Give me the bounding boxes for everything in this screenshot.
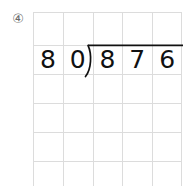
grid-vline [122, 12, 123, 186]
grid-vline [93, 12, 94, 186]
grid-vline [33, 12, 34, 186]
grid-hline [33, 74, 182, 75]
worksheet-canvas: ④ 8 0 8 7 6 [0, 0, 186, 186]
graph-paper-grid [33, 12, 182, 186]
digit-row: 8 0 8 7 6 [33, 45, 182, 74]
grid-hline [33, 161, 182, 162]
digit-cell-dividend-hundreds[interactable]: 8 [93, 45, 123, 74]
digit-cell-dividend-ones[interactable]: 6 [152, 45, 182, 74]
digit-cell-divisor-ones[interactable]: 0 [63, 45, 93, 74]
problem-number-label: ④ [8, 9, 28, 29]
grid-hline [33, 103, 182, 104]
grid-vline [152, 12, 153, 186]
grid-hline [33, 132, 182, 133]
digit-cell-dividend-tens[interactable]: 7 [122, 45, 152, 74]
digit-cell-divisor-tens[interactable]: 8 [33, 45, 63, 74]
grid-hline [33, 12, 182, 13]
grid-vline [63, 12, 64, 186]
grid-vline [181, 12, 182, 186]
